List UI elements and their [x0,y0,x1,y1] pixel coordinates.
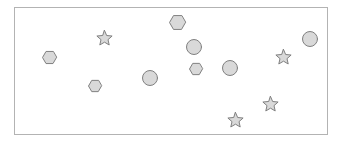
star-marker[interactable] [272,46,295,69]
circle-marker[interactable] [139,67,161,89]
hexagon-1[interactable] [42,51,56,63]
star-2[interactable] [275,49,290,63]
star-4[interactable] [227,112,242,126]
circle-1[interactable] [143,71,158,86]
circle-marker[interactable] [299,28,321,50]
star-3[interactable] [262,96,277,110]
circle-2[interactable] [187,40,202,55]
circle-3[interactable] [223,61,238,76]
hexagon-4[interactable] [190,63,203,74]
circle-marker[interactable] [183,36,205,58]
hexagon-marker[interactable] [39,47,60,68]
shape-scatter-canvas [0,0,343,142]
hexagon-3[interactable] [169,15,185,29]
hexagon-2[interactable] [89,80,102,91]
hexagon-marker[interactable] [85,76,105,96]
shape-layer [0,0,343,142]
star-marker[interactable] [93,27,116,50]
star-1[interactable] [96,30,111,44]
hexagon-marker[interactable] [186,59,206,79]
hexagon-marker[interactable] [166,11,189,34]
star-marker[interactable] [224,109,247,132]
circle-4[interactable] [303,32,318,47]
star-marker[interactable] [259,93,282,116]
circle-marker[interactable] [219,57,241,79]
